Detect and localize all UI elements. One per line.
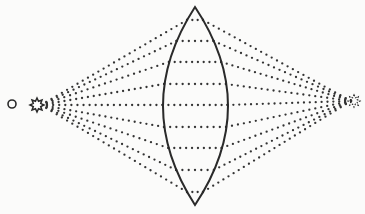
- ray-dot: [271, 140, 273, 142]
- ray-dot: [282, 124, 284, 126]
- ray-dot: [265, 142, 267, 144]
- ray-dot: [179, 61, 181, 63]
- ray-dot: [206, 169, 208, 171]
- ray-dot: [345, 103, 347, 105]
- ray-dot: [340, 106, 342, 108]
- ray-dot: [250, 150, 252, 152]
- ray-dot: [326, 97, 328, 99]
- ray-dot: [273, 66, 275, 68]
- ray-dot: [197, 19, 199, 21]
- ray-dot: [248, 163, 250, 165]
- ray-dot: [253, 159, 255, 161]
- ray-dot: [220, 104, 222, 106]
- ray-dot: [182, 40, 184, 42]
- ray-dot: [170, 28, 172, 30]
- ray-dot: [240, 52, 242, 54]
- ray-dot: [137, 104, 139, 106]
- ray-dot: [71, 122, 73, 124]
- ray-dot: [285, 102, 287, 104]
- ray-dot: [165, 178, 167, 180]
- ray-dot: [215, 104, 217, 106]
- ray-dot: [215, 147, 217, 149]
- ray-dot: [278, 69, 280, 71]
- ray-dot: [255, 120, 257, 122]
- ray-dot: [318, 116, 320, 118]
- ray-dot: [329, 112, 331, 114]
- ray-dot: [267, 117, 269, 119]
- ray-dot: [197, 191, 199, 193]
- ray-dot: [63, 96, 65, 98]
- ray-dot: [209, 104, 211, 106]
- ray-dot: [93, 95, 95, 97]
- ray-dot: [139, 163, 141, 165]
- ray-dot: [45, 107, 47, 109]
- ray-dot: [194, 83, 196, 85]
- ray-dot: [243, 85, 245, 87]
- ray-dot: [255, 48, 257, 50]
- ray-dot: [127, 75, 129, 77]
- ray-dot: [165, 45, 167, 47]
- ray-dot: [129, 157, 131, 159]
- ray-dot: [191, 61, 193, 63]
- ray-dot: [262, 61, 264, 63]
- ray-dot: [237, 141, 239, 143]
- ray-dot: [197, 61, 199, 63]
- ray-dot: [256, 103, 258, 105]
- ray-dot: [121, 65, 123, 67]
- ray-dot: [88, 104, 90, 106]
- ray-dot: [223, 45, 225, 47]
- ray-dot: [273, 147, 275, 149]
- ray-dot: [219, 83, 221, 85]
- ray-dot: [282, 80, 284, 82]
- ray-dot: [243, 139, 245, 141]
- ray-dot: [97, 138, 99, 140]
- ray-dot: [260, 51, 262, 53]
- ray-dot: [139, 46, 141, 48]
- ray-dot: [61, 116, 63, 118]
- ray-dot: [288, 122, 290, 124]
- ray-dot: [108, 144, 110, 146]
- ray-dot: [143, 55, 145, 57]
- ray-dot: [260, 133, 262, 135]
- ray-dot: [294, 120, 296, 122]
- ray-dot: [110, 80, 112, 82]
- ray-dot: [105, 135, 107, 137]
- ray-dot: [110, 138, 112, 140]
- ray-dot: [107, 104, 109, 106]
- ray-dot: [249, 121, 251, 123]
- ray-dot: [98, 114, 100, 116]
- ray-dot: [299, 118, 301, 120]
- ray-dot: [323, 113, 325, 115]
- ray-dot: [55, 113, 57, 115]
- ray-dot: [94, 78, 96, 80]
- ray-dot: [70, 104, 72, 106]
- ray-dot: [214, 61, 216, 63]
- ray-dot: [69, 99, 71, 101]
- ray-dot: [310, 88, 312, 90]
- ray-dot: [248, 69, 250, 71]
- ray-dot: [72, 88, 74, 90]
- ray-dot: [254, 135, 256, 137]
- ray-dot: [329, 88, 331, 90]
- ray-dot: [113, 61, 115, 63]
- ray-dot: [188, 126, 190, 128]
- ray-dot: [320, 106, 322, 108]
- ray-dot: [209, 147, 211, 149]
- ray-dot: [316, 112, 318, 114]
- ray-dot: [304, 128, 306, 130]
- ray-dot: [118, 58, 120, 60]
- ray-dot: [164, 164, 166, 166]
- ray-dot: [231, 125, 233, 127]
- ray-dot: [332, 104, 334, 106]
- ray-dot: [234, 49, 236, 51]
- light-rays: [40, 19, 352, 193]
- ray-dot: [125, 104, 127, 106]
- ray-dot: [260, 145, 262, 147]
- ray-dot: [160, 34, 162, 36]
- ray-dot: [121, 143, 123, 145]
- ray-dot: [173, 104, 175, 106]
- ray-dot: [170, 166, 172, 168]
- ray-dot: [335, 109, 337, 111]
- ray-dot: [150, 67, 152, 69]
- ray-dot: [87, 96, 89, 98]
